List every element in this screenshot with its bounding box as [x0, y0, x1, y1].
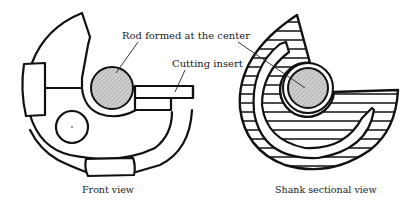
- cutting-tool-diagram: Rod formed at the center Cutting insert …: [0, 0, 414, 205]
- callout-insert: Cutting insert: [172, 58, 243, 69]
- rod-leader-front: [116, 42, 138, 73]
- caption-front-view: Front view: [82, 184, 134, 195]
- cutting-insert-upper: [135, 86, 193, 98]
- front-left-pad: [22, 63, 45, 116]
- front-small-hole-center: [71, 126, 73, 128]
- cutting-insert-lower: [135, 98, 171, 110]
- front-bottom-pad: [85, 158, 134, 176]
- callout-rod: Rod formed at the center: [122, 30, 250, 41]
- caption-shank-view: Shank sectional view: [275, 184, 377, 195]
- front-body-lower-arc: [30, 112, 172, 159]
- shank-view: [230, 15, 400, 169]
- front-body-outer-arc: [136, 110, 192, 172]
- shank-rod: [288, 68, 328, 108]
- front-rod: [91, 67, 133, 109]
